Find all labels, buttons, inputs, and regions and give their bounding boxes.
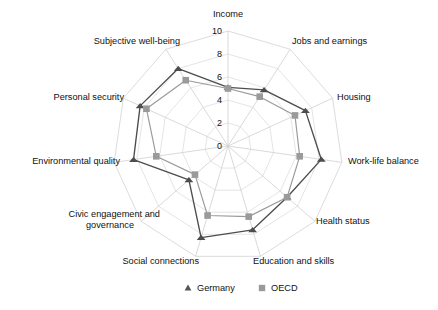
radial-tick-8: 8 bbox=[217, 49, 222, 59]
data-point-oecd-7 bbox=[192, 171, 199, 178]
radial-tick-4: 4 bbox=[217, 95, 222, 105]
radial-tick-10: 10 bbox=[212, 26, 222, 36]
category-label-3: Work-life balance bbox=[348, 156, 419, 166]
category-label-5: Education and skills bbox=[253, 256, 335, 266]
legend-label-oecd[interactable]: OECD bbox=[271, 283, 298, 293]
category-label-8: Environmental quality bbox=[32, 156, 120, 166]
category-label-4: Health status bbox=[316, 216, 370, 226]
category-label-7-line1: governance bbox=[86, 220, 134, 230]
category-label-0: Income bbox=[213, 9, 243, 19]
radial-tick-6: 6 bbox=[217, 72, 222, 82]
category-label-6: Social connections bbox=[122, 256, 199, 266]
chart-background bbox=[0, 0, 438, 310]
data-point-oecd-9 bbox=[143, 105, 150, 112]
radar-chart: 0246810 IncomeJobs and earningsHousingWo… bbox=[0, 0, 438, 310]
category-label-2: Housing bbox=[337, 92, 371, 102]
radar-chart-svg: 0246810 IncomeJobs and earningsHousingWo… bbox=[0, 0, 438, 310]
legend-marker-oecd bbox=[259, 285, 265, 291]
data-point-oecd-5 bbox=[245, 213, 252, 220]
legend-label-germany[interactable]: Germany bbox=[197, 283, 235, 293]
radial-tick-2: 2 bbox=[217, 118, 222, 128]
category-label-9: Personal security bbox=[54, 92, 125, 102]
data-point-oecd-1 bbox=[256, 93, 263, 100]
data-point-oecd-10 bbox=[182, 77, 189, 84]
radial-tick-0: 0 bbox=[217, 141, 222, 151]
category-label-1: Jobs and earnings bbox=[292, 36, 367, 46]
category-label-10: Subjective well-being bbox=[94, 36, 180, 46]
data-point-oecd-8 bbox=[153, 153, 160, 160]
data-point-oecd-3 bbox=[296, 153, 303, 160]
data-point-oecd-2 bbox=[292, 112, 299, 119]
data-point-oecd-0 bbox=[225, 85, 232, 92]
category-label-7-line0: Civic engagement and bbox=[69, 209, 160, 219]
data-point-oecd-6 bbox=[204, 212, 211, 219]
data-point-oecd-4 bbox=[284, 194, 291, 201]
